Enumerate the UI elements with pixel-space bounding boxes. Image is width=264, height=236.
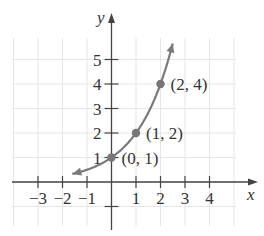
x-axis-label: x <box>246 185 255 204</box>
point-label: (1, 2) <box>146 124 183 143</box>
x-tick-label: −2 <box>53 189 71 208</box>
x-tick-label: 1 <box>132 189 141 208</box>
point-label: (2, 4) <box>171 75 208 94</box>
x-tick-label: 4 <box>205 189 214 208</box>
x-tick-label: −3 <box>29 189 47 208</box>
data-point <box>107 153 115 161</box>
x-tick-label: −1 <box>78 189 96 208</box>
y-tick-label: 3 <box>93 100 102 119</box>
x-tick-label: 3 <box>181 189 190 208</box>
data-point <box>156 80 164 88</box>
y-axis-label: y <box>95 8 105 27</box>
y-tick-label: 5 <box>93 51 102 70</box>
y-axis-arrow-icon <box>108 13 115 23</box>
y-tick-label: 2 <box>93 124 102 143</box>
exponential-graph: xy−3−2−1123412345(0, 1)(1, 2)(2, 4) <box>0 0 264 236</box>
x-tick-label: 2 <box>156 189 165 208</box>
y-tick-label: 4 <box>93 75 102 94</box>
data-point <box>132 129 140 137</box>
point-label: (0, 1) <box>122 149 159 168</box>
